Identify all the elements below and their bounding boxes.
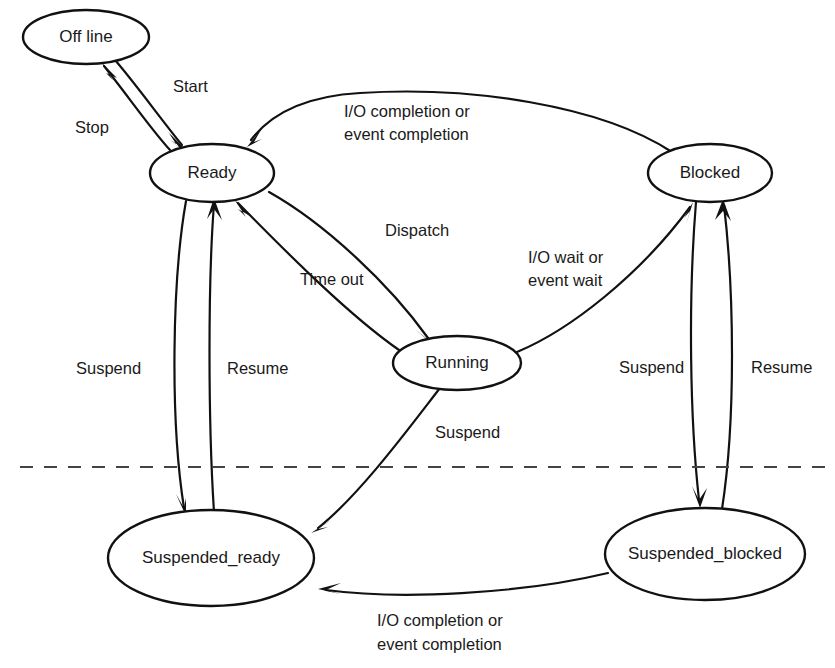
edge-label-suspend-right: Suspend bbox=[619, 358, 684, 376]
edge-suspend-ready-path bbox=[174, 201, 186, 508]
edge-resume-ready bbox=[207, 198, 222, 512]
edge-io-completion-bottom-path bbox=[326, 573, 608, 595]
edge-io-completion-bottom bbox=[318, 573, 608, 595]
edge-dispatch bbox=[269, 192, 432, 344]
node-suspended-blocked[interactable]: Suspended_blocked bbox=[605, 508, 805, 600]
edge-suspend-blocked-path bbox=[691, 202, 699, 500]
edge-label-resume-left: Resume bbox=[227, 359, 288, 377]
node-blocked-label: Blocked bbox=[680, 163, 740, 182]
edge-label-stop: Stop bbox=[75, 118, 109, 136]
edge-label-io-wait-line1: I/O wait or bbox=[528, 248, 604, 266]
edge-suspend-running-arrowhead bbox=[311, 520, 331, 533]
edge-label-io-wait-line2: event wait bbox=[528, 271, 603, 289]
edge-start-arrowhead bbox=[170, 134, 184, 148]
edge-label-io-completion-top-line2: event completion bbox=[344, 125, 469, 143]
edge-label-resume-right: Resume bbox=[751, 358, 812, 376]
edge-stop-arrowhead bbox=[101, 62, 117, 80]
edge-label-io-completion-bottom-line2: event completion bbox=[377, 635, 502, 653]
node-offline[interactable]: Off line bbox=[23, 10, 149, 64]
edge-io-completion-top-arrowhead bbox=[247, 128, 262, 147]
edge-time-out-arrowhead bbox=[234, 199, 250, 217]
edge-label-io-completion-bottom-line1: I/O completion or bbox=[377, 611, 503, 629]
edge-suspend-running bbox=[311, 388, 440, 533]
edge-label-suspend-left: Suspend bbox=[76, 359, 141, 377]
node-suspended-ready-label: Suspended_ready bbox=[142, 548, 281, 567]
edge-label-dispatch: Dispatch bbox=[385, 221, 449, 239]
edge-stop-path bbox=[104, 66, 170, 150]
node-suspended-ready[interactable]: Suspended_ready bbox=[108, 510, 314, 606]
edge-suspend-running-path bbox=[318, 388, 440, 528]
edge-label-start: Start bbox=[173, 77, 208, 95]
state-diagram-canvas: Off line Ready Blocked Running Suspended… bbox=[0, 0, 835, 668]
edge-resume-blocked bbox=[715, 199, 732, 509]
node-running[interactable]: Running bbox=[393, 336, 521, 390]
node-offline-label: Off line bbox=[59, 27, 113, 46]
edge-label-suspend-middle: Suspend bbox=[435, 423, 500, 441]
node-blocked[interactable]: Blocked bbox=[648, 144, 772, 202]
edge-dispatch-path bbox=[269, 192, 428, 338]
edge-suspend-blocked bbox=[691, 202, 707, 508]
node-suspended-blocked-label: Suspended_blocked bbox=[628, 544, 782, 563]
edge-resume-ready-path bbox=[210, 204, 215, 512]
edge-stop bbox=[101, 62, 170, 150]
edge-resume-blocked-path bbox=[722, 205, 732, 509]
process-state-diagram: Off line Ready Blocked Running Suspended… bbox=[0, 0, 835, 668]
node-ready-label: Ready bbox=[187, 163, 237, 182]
edge-label-time-out: Time out bbox=[300, 270, 364, 288]
edge-start-path bbox=[115, 60, 182, 145]
edge-start bbox=[115, 60, 186, 151]
edge-suspend-ready bbox=[174, 201, 186, 516]
node-running-label: Running bbox=[425, 353, 488, 372]
node-ready[interactable]: Ready bbox=[150, 144, 274, 202]
edge-label-io-completion-top-line1: I/O completion or bbox=[344, 102, 470, 120]
